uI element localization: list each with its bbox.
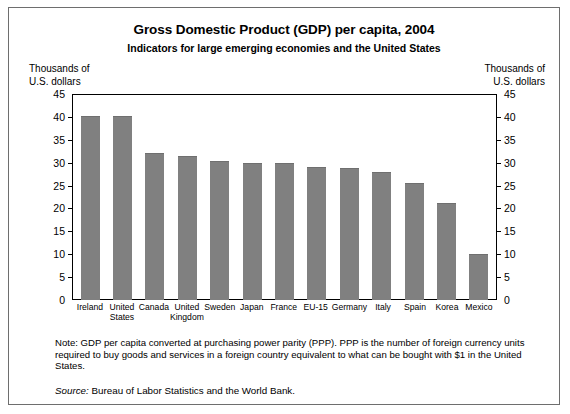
x-axis-label: Sweden <box>204 302 236 330</box>
plot-area: 005510101515202025253030353540404545 <box>72 94 497 300</box>
y-axis-tick-label-left: 40 <box>53 112 65 123</box>
y-axis-tick-mark <box>497 208 501 209</box>
y-axis-tick-mark <box>497 231 501 232</box>
bar[interactable] <box>405 183 424 300</box>
bar[interactable] <box>469 254 488 300</box>
bar[interactable] <box>307 167 326 300</box>
bar[interactable] <box>81 116 100 300</box>
x-axis-label: Japan <box>236 302 268 330</box>
y-axis-tick-label-right: 5 <box>504 272 510 283</box>
chart-note: Note: GDP per capita converted at purcha… <box>55 337 529 372</box>
chart-subtitle: Indicators for large emerging economies … <box>9 42 559 54</box>
y-axis-tick-label-left: 35 <box>53 135 65 146</box>
x-axis-label: Germany <box>332 302 367 330</box>
bar-slot <box>366 94 398 300</box>
chart-title: Gross Domestic Product (GDP) per capita,… <box>9 22 559 37</box>
y-axis-tick-label-left: 25 <box>53 181 65 192</box>
bar-slot <box>139 94 171 300</box>
bar-slot <box>74 94 106 300</box>
y-axis-tick-mark <box>497 140 501 141</box>
y-axis-tick-label-right: 45 <box>504 89 516 100</box>
y-axis-tick-label-left: 10 <box>53 249 65 260</box>
y-axis-tick-mark <box>497 186 501 187</box>
x-axis-label: EU-15 <box>300 302 332 330</box>
y-axis-tick-label-left: 15 <box>53 226 65 237</box>
y-axis-tick-mark <box>68 140 72 141</box>
y-axis-unit-caption-right: Thousands of U.S. dollars <box>484 62 545 88</box>
y-axis-tick-label-left: 20 <box>53 203 65 214</box>
y-axis-tick-label-right: 30 <box>504 158 516 169</box>
y-axis-tick-label-right: 0 <box>504 295 510 306</box>
x-axis-category-labels: IrelandUnited StatesCanadaUnited Kingdom… <box>72 302 497 330</box>
y-axis-tick-mark <box>68 277 72 278</box>
bar[interactable] <box>210 161 229 300</box>
bar-series <box>72 94 497 300</box>
bar[interactable] <box>113 116 132 300</box>
y-axis-tick-label-left: 45 <box>53 89 65 100</box>
y-axis-tick-label-left: 5 <box>59 272 65 283</box>
y-axis-tick-mark <box>68 117 72 118</box>
x-axis-label: Mexico <box>463 302 495 330</box>
x-axis-label: Canada <box>138 302 170 330</box>
x-axis-label: Korea <box>431 302 463 330</box>
bar-slot <box>463 94 495 300</box>
y-axis-tick-label-left: 30 <box>53 158 65 169</box>
y-axis-tick-label-right: 35 <box>504 135 516 146</box>
source-value: Bureau of Labor Statistics and the World… <box>89 385 295 396</box>
source-label: Source: <box>55 385 89 396</box>
y-axis-tick-mark <box>497 254 501 255</box>
bar[interactable] <box>340 168 359 300</box>
x-axis-label: France <box>268 302 300 330</box>
bar-slot <box>236 94 268 300</box>
bar[interactable] <box>437 203 456 300</box>
x-axis-label: Ireland <box>74 302 106 330</box>
y-axis-tick-mark <box>68 231 72 232</box>
y-axis-tick-mark <box>68 208 72 209</box>
y-axis-tick-label-right: 20 <box>504 203 516 214</box>
chart-source: Source: Bureau of Labor Statistics and t… <box>55 385 529 397</box>
bar[interactable] <box>178 156 197 300</box>
y-axis-tick-mark <box>68 186 72 187</box>
y-axis-tick-mark <box>497 277 501 278</box>
y-axis-tick-label-left: 0 <box>59 295 65 306</box>
y-axis-tick-label-right: 15 <box>504 226 516 237</box>
y-axis-tick-label-right: 25 <box>504 181 516 192</box>
bar-slot <box>398 94 430 300</box>
bar[interactable] <box>145 153 164 300</box>
x-axis-label: United Kingdom <box>170 302 204 330</box>
bar-slot <box>333 94 365 300</box>
bar[interactable] <box>243 163 262 300</box>
bar-slot <box>171 94 203 300</box>
x-axis-label: Italy <box>367 302 399 330</box>
bar-slot <box>204 94 236 300</box>
y-axis-tick-mark <box>497 117 501 118</box>
bar-slot <box>301 94 333 300</box>
bar-slot <box>430 94 462 300</box>
y-axis-tick-mark <box>68 254 72 255</box>
bar-slot <box>106 94 138 300</box>
bar[interactable] <box>275 163 294 300</box>
chart-figure: Gross Domestic Product (GDP) per capita,… <box>8 7 560 405</box>
bar-slot <box>268 94 300 300</box>
bar[interactable] <box>372 172 391 300</box>
y-axis-tick-label-right: 40 <box>504 112 516 123</box>
x-axis-label: Spain <box>399 302 431 330</box>
y-axis-unit-caption-left: Thousands of U.S. dollars <box>29 62 90 88</box>
x-axis-label: United States <box>106 302 138 330</box>
y-axis-tick-label-right: 10 <box>504 249 516 260</box>
y-axis-tick-mark <box>68 163 72 164</box>
y-axis-tick-mark <box>497 163 501 164</box>
